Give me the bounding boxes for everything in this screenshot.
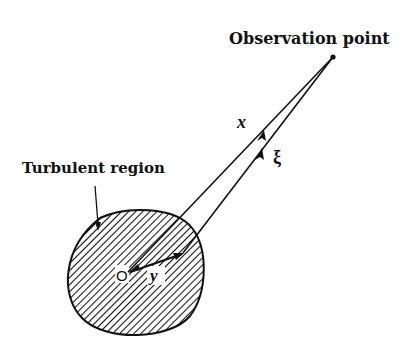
turbulent-region-blob — [68, 210, 204, 335]
turbulence-diagram: Observation point Turbulent region x ξ O… — [0, 0, 415, 345]
vector-y-label: y — [148, 266, 158, 285]
observation-point-dot — [330, 54, 335, 59]
region-pointer-line — [95, 186, 98, 224]
vector-x-label: x — [236, 112, 246, 132]
origin-label: O — [116, 267, 128, 284]
vector-xi-label: ξ — [273, 147, 281, 168]
observation-point-label: Observation point — [229, 29, 390, 48]
turbulent-region-label: Turbulent region — [22, 159, 165, 177]
